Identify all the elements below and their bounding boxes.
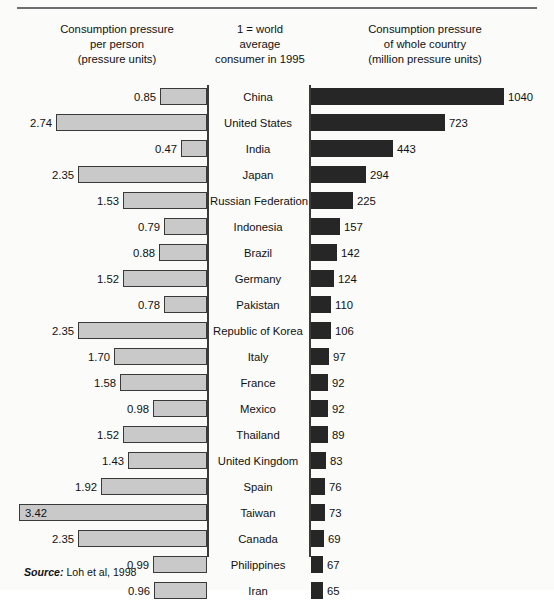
value-label-whole-country: 106: [335, 323, 354, 340]
bar-whole-country: [311, 88, 504, 105]
value-label-whole-country: 65: [327, 583, 340, 600]
chart-row: 1.70Italy97: [0, 345, 554, 371]
header-right-line-3: (million pressure units): [312, 52, 538, 67]
header-middle-line-2: average: [212, 37, 308, 52]
bar-per-person: [181, 140, 207, 157]
bar-whole-country: [311, 426, 328, 443]
country-label: Japan: [210, 167, 306, 184]
chart-row: 1.92Spain76: [0, 475, 554, 501]
bar-per-person: [114, 348, 207, 365]
header-left-line-2: per person: [26, 37, 208, 52]
value-label-per-person: 0.85: [112, 89, 156, 106]
column-headings: Consumption pressure per person (pressur…: [0, 22, 554, 78]
bar-per-person: [78, 530, 207, 547]
bar-per-person: [123, 270, 207, 287]
value-label-whole-country: 157: [344, 219, 363, 236]
chart-row: 0.78Pakistan110: [0, 293, 554, 319]
value-label-whole-country: 294: [370, 167, 389, 184]
value-label-per-person: 3.42: [25, 505, 69, 522]
chart-row: 1.52Thailand89: [0, 423, 554, 449]
value-label-whole-country: 723: [449, 115, 468, 132]
chart-row: 0.79Indonesia157: [0, 215, 554, 241]
value-label-whole-country: 110: [335, 297, 353, 314]
chart-row: 1.53Russian Federation225: [0, 189, 554, 215]
chart-row: 0.85China1040: [0, 85, 554, 111]
source-note: Source: Loh et al, 1998: [24, 566, 137, 578]
header-middle-line-1: 1 = world: [212, 22, 308, 37]
bar-whole-country: [311, 114, 445, 131]
value-label-per-person: 2.35: [30, 167, 74, 184]
bar-whole-country: [311, 322, 331, 339]
country-label: Brazil: [210, 245, 306, 262]
bar-per-person: [164, 218, 207, 235]
bar-whole-country: [311, 244, 337, 261]
value-label-whole-country: 92: [332, 401, 345, 418]
value-label-whole-country: 443: [397, 141, 416, 158]
value-label-per-person: 2.35: [30, 531, 74, 548]
value-label-per-person: 0.78: [116, 297, 160, 314]
value-label-per-person: 1.70: [66, 349, 110, 366]
country-label: United Kingdom: [210, 453, 306, 470]
source-label: Source:: [24, 566, 63, 578]
bar-whole-country: [311, 582, 323, 599]
value-label-whole-country: 124: [338, 271, 357, 288]
bar-whole-country: [311, 374, 328, 391]
country-label: China: [210, 89, 306, 106]
value-label-whole-country: 69: [328, 531, 341, 548]
country-label: Indonesia: [210, 219, 306, 236]
bar-whole-country: [311, 296, 331, 313]
value-label-per-person: 1.92: [53, 479, 97, 496]
value-label-whole-country: 73: [329, 505, 342, 522]
header-left-line-3: (pressure units): [26, 52, 208, 67]
country-label: Taiwan: [210, 505, 306, 522]
value-label-per-person: 1.53: [75, 193, 119, 210]
country-label: France: [210, 375, 306, 392]
value-label-whole-country: 67: [327, 557, 340, 574]
chart-row: 2.35Republic of Korea106: [0, 319, 554, 345]
country-label: Spain: [210, 479, 306, 496]
bar-per-person: [123, 426, 207, 443]
value-label-per-person: 1.43: [80, 453, 124, 470]
header-right-line-2: of whole country: [312, 37, 538, 52]
header-left-line-1: Consumption pressure: [26, 22, 208, 37]
bar-whole-country: [311, 140, 393, 157]
country-label: Thailand: [210, 427, 306, 444]
country-label: India: [210, 141, 306, 158]
country-label: Germany: [210, 271, 306, 288]
value-label-whole-country: 76: [329, 479, 342, 496]
country-label: Philippines: [210, 557, 306, 574]
value-label-per-person: 0.96: [106, 583, 150, 600]
bar-whole-country: [311, 504, 325, 521]
bar-per-person: [120, 374, 207, 391]
bar-whole-country: [311, 166, 366, 183]
bar-whole-country: [311, 218, 340, 235]
chart-row: 1.52Germany124: [0, 267, 554, 293]
country-label: Canada: [210, 531, 306, 548]
bar-per-person: [56, 114, 207, 131]
country-label: Russian Federation: [210, 193, 306, 210]
bar-whole-country: [311, 478, 325, 495]
value-label-whole-country: 225: [357, 193, 376, 210]
chart-row: 1.43United Kingdom83: [0, 449, 554, 475]
country-label: Mexico: [210, 401, 306, 418]
bar-per-person: [159, 244, 207, 261]
country-label: United States: [210, 115, 306, 132]
chart-row: 0.96Iran65: [0, 579, 554, 603]
value-label-per-person: 0.98: [105, 401, 149, 418]
header-left-column: Consumption pressure per person (pressur…: [26, 22, 208, 67]
bar-per-person: [154, 582, 207, 599]
value-label-whole-country: 97: [333, 349, 346, 366]
value-label-whole-country: 1040: [508, 89, 533, 106]
value-label-per-person: 1.52: [75, 427, 119, 444]
bar-whole-country: [311, 192, 353, 209]
chart-row: 0.98Mexico92: [0, 397, 554, 423]
header-middle-column: 1 = world average consumer in 1995: [212, 22, 308, 67]
bar-per-person: [78, 322, 207, 339]
country-label: Iran: [210, 583, 306, 600]
value-label-whole-country: 92: [332, 375, 345, 392]
chart-row: 0.47India443: [0, 137, 554, 163]
header-middle-line-3: consumer in 1995: [212, 52, 308, 67]
bar-whole-country: [311, 400, 328, 417]
plot-area: 0.85China10402.74United States7230.47Ind…: [0, 85, 554, 557]
country-label: Republic of Korea: [210, 323, 306, 340]
